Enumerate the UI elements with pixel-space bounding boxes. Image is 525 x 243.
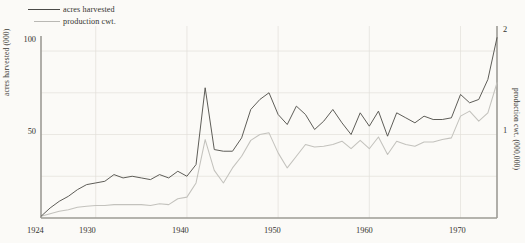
- axis-lines: [41, 26, 497, 218]
- chart-plot-area: [0, 0, 525, 243]
- chart-figure: acres harvested production cwt. acres ha…: [0, 0, 525, 243]
- gridlines: [41, 26, 497, 218]
- series-line-acres-harvested: [41, 38, 497, 217]
- series-line-production-cwt: [41, 83, 497, 217]
